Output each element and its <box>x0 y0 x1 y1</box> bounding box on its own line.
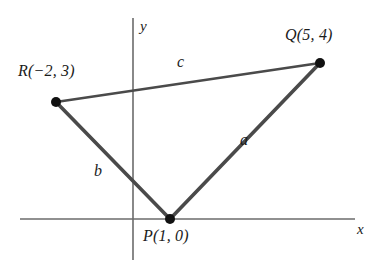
coordinate-plane-figure: R(−2, 3) Q(5, 4) P(1, 0) a b c x y <box>0 0 377 274</box>
side-label-c: c <box>177 54 184 70</box>
vertex-dot-r <box>51 97 61 107</box>
triangle-side-c <box>56 63 320 102</box>
vertex-dot-q <box>315 58 325 68</box>
triangle-side-b <box>56 102 170 219</box>
vertex-dot-p <box>165 214 175 224</box>
x-axis-label: x <box>357 222 364 237</box>
y-axis-label: y <box>140 19 147 34</box>
vertex-label-q: Q(5, 4) <box>285 27 333 43</box>
vertex-label-r: R(−2, 3) <box>18 63 75 79</box>
side-label-a: a <box>240 132 248 148</box>
side-label-b: b <box>94 163 102 179</box>
vertex-label-p: P(1, 0) <box>143 228 189 244</box>
